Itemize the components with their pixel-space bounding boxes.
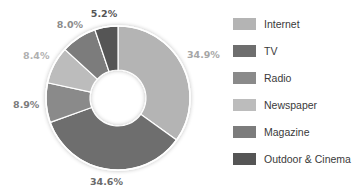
legend-label: Newspaper bbox=[264, 99, 317, 111]
legend-swatch bbox=[233, 99, 256, 111]
legend-swatch bbox=[233, 126, 256, 138]
legend-label: Radio bbox=[264, 72, 291, 84]
slice-percent-label: 8.9% bbox=[13, 99, 40, 110]
slice-percent-label: 8.0% bbox=[57, 19, 84, 30]
legend-item-magazine[interactable]: Magazine bbox=[233, 118, 351, 145]
legend-item-newspaper[interactable]: Newspaper bbox=[233, 91, 351, 118]
slice-percent-label: 34.9% bbox=[187, 49, 220, 60]
legend-item-outdoor-cinema[interactable]: Outdoor & Cinema bbox=[233, 145, 351, 172]
legend-swatch bbox=[233, 72, 256, 84]
donut-chart: 34.9%34.6%8.9%8.4%8.0%5.2% bbox=[0, 0, 230, 195]
legend-item-internet[interactable]: Internet bbox=[233, 10, 351, 37]
legend-label: TV bbox=[264, 45, 277, 57]
legend-label: Internet bbox=[264, 18, 300, 30]
legend-swatch bbox=[233, 45, 256, 57]
legend-item-radio[interactable]: Radio bbox=[233, 64, 351, 91]
donut-slice-internet[interactable] bbox=[118, 26, 190, 140]
slice-percent-label: 8.4% bbox=[23, 50, 50, 61]
legend-label: Magazine bbox=[264, 126, 310, 138]
legend: Internet TV Radio Newspaper Magazine Out… bbox=[233, 10, 351, 172]
legend-label: Outdoor & Cinema bbox=[264, 153, 351, 165]
legend-swatch bbox=[233, 153, 256, 165]
slice-percent-label: 34.6% bbox=[90, 176, 123, 187]
legend-item-tv[interactable]: TV bbox=[233, 37, 351, 64]
slice-percent-label: 5.2% bbox=[91, 8, 118, 19]
legend-swatch bbox=[233, 18, 256, 30]
